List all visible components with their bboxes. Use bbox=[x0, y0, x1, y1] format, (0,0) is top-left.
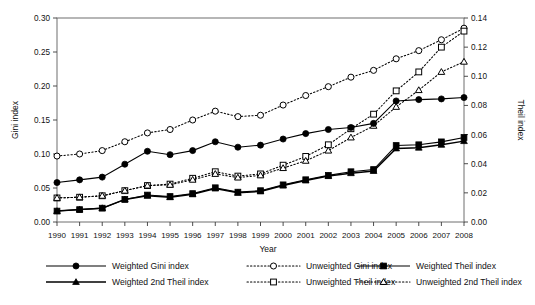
y-axis-tick-label: 0.20 bbox=[34, 82, 50, 91]
y2-axis-tick-label: 0.00 bbox=[471, 218, 487, 227]
y2-axis-tick-label: 0.02 bbox=[471, 189, 487, 198]
chart-legend: Weighted Gini indexUnweighted Gini index… bbox=[46, 261, 523, 287]
x-axis-tick-label: 2003 bbox=[342, 231, 360, 240]
y2-axis-tick-label: 0.06 bbox=[471, 131, 487, 140]
x-axis-tick-label: 2000 bbox=[274, 231, 292, 240]
x-axis-tick-label: 1998 bbox=[229, 231, 247, 240]
data-point-marker bbox=[461, 95, 467, 101]
data-point-marker bbox=[325, 84, 331, 90]
series-unweighted-2nd-theil-index bbox=[54, 58, 468, 200]
y2-axis-tick-label: 0.12 bbox=[471, 43, 487, 52]
data-point-marker bbox=[371, 111, 377, 117]
x-axis-tick-label: 2001 bbox=[297, 231, 315, 240]
data-point-marker bbox=[212, 108, 218, 114]
data-point-marker bbox=[280, 102, 286, 108]
x-axis-tick-label: 2007 bbox=[432, 231, 450, 240]
data-point-marker bbox=[212, 139, 218, 145]
data-point-marker bbox=[167, 126, 173, 132]
x-axis-tick-label: 2004 bbox=[365, 231, 383, 240]
legend-label: Unweighted 2nd Theil index bbox=[416, 277, 523, 287]
legend-item: Weighted 2nd Theil index bbox=[46, 277, 209, 287]
x-axis-tick-label: 2008 bbox=[455, 231, 473, 240]
chart-figure: 0.000.050.100.150.200.250.300.000.020.04… bbox=[0, 0, 535, 305]
data-point-marker bbox=[257, 112, 263, 118]
data-point-marker bbox=[144, 130, 150, 136]
x-axis-tick-label: 2006 bbox=[410, 231, 428, 240]
x-axis-tick-label: 2005 bbox=[387, 231, 405, 240]
data-point-marker bbox=[416, 97, 422, 103]
legend-item: Weighted Gini index bbox=[46, 261, 189, 271]
data-point-marker bbox=[122, 139, 128, 145]
data-point-marker bbox=[325, 126, 331, 132]
data-point-marker bbox=[348, 74, 354, 80]
series-line bbox=[57, 98, 464, 183]
data-point-marker bbox=[280, 136, 286, 142]
data-point-marker bbox=[438, 69, 445, 75]
data-point-marker bbox=[257, 142, 263, 148]
y-axis-tick-label: 0.25 bbox=[34, 48, 50, 57]
y-axis-tick-label: 0.10 bbox=[34, 150, 50, 159]
data-point-marker bbox=[438, 96, 444, 102]
data-point-marker bbox=[461, 28, 467, 34]
data-point-marker bbox=[235, 114, 241, 120]
y-axis-tick-label: 0.00 bbox=[34, 218, 50, 227]
data-point-marker bbox=[393, 98, 399, 104]
series-line bbox=[57, 28, 464, 156]
y2-axis-tick-label: 0.10 bbox=[471, 72, 487, 81]
data-point-marker bbox=[167, 152, 173, 158]
data-point-marker bbox=[393, 88, 399, 94]
data-point-marker bbox=[190, 117, 196, 123]
data-point-marker bbox=[270, 263, 276, 269]
y2-axis-title: Theil index bbox=[516, 99, 526, 141]
data-point-marker bbox=[393, 56, 399, 62]
x-axis-tick-label: 1995 bbox=[161, 231, 179, 240]
x-axis-tick-label: 1997 bbox=[206, 231, 224, 240]
legend-label: Weighted 2nd Theil index bbox=[112, 277, 209, 287]
series-unweighted-gini-index bbox=[54, 25, 467, 159]
data-point-marker bbox=[438, 37, 444, 43]
x-axis-title: Year bbox=[259, 244, 276, 254]
data-point-marker bbox=[461, 58, 468, 64]
y2-axis-tick-label: 0.14 bbox=[471, 14, 487, 23]
data-point-marker bbox=[54, 153, 60, 159]
data-point-marker bbox=[303, 92, 309, 98]
x-axis-tick-label: 1996 bbox=[184, 231, 202, 240]
y-axis-tick-label: 0.15 bbox=[34, 116, 50, 125]
legend-item: Unweighted Theil index bbox=[247, 277, 396, 287]
data-point-marker bbox=[190, 148, 196, 154]
x-axis-tick-label: 1990 bbox=[48, 231, 66, 240]
data-point-marker bbox=[77, 151, 83, 157]
data-point-marker bbox=[381, 263, 387, 269]
y-axis-title: Gini index bbox=[10, 100, 20, 139]
data-point-marker bbox=[416, 48, 422, 54]
legend-label: Weighted Theil index bbox=[416, 261, 497, 271]
data-point-marker bbox=[235, 144, 241, 150]
y2-axis-tick-label: 0.04 bbox=[471, 160, 487, 169]
chart-canvas: 0.000.050.100.150.200.250.300.000.020.04… bbox=[0, 0, 535, 305]
data-point-marker bbox=[348, 134, 355, 140]
data-point-marker bbox=[99, 174, 105, 180]
data-point-marker bbox=[303, 131, 309, 137]
legend-label: Weighted Gini index bbox=[112, 261, 189, 271]
y-axis-tick-label: 0.30 bbox=[34, 14, 50, 23]
data-point-marker bbox=[438, 44, 444, 50]
data-point-marker bbox=[99, 148, 105, 154]
y2-axis-tick-label: 0.08 bbox=[471, 101, 487, 110]
data-point-marker bbox=[54, 180, 60, 186]
data-point-marker bbox=[271, 279, 277, 285]
data-point-marker bbox=[416, 69, 422, 75]
data-point-marker bbox=[73, 263, 79, 269]
x-axis-tick-label: 1993 bbox=[116, 231, 134, 240]
x-axis-tick-label: 1999 bbox=[252, 231, 270, 240]
data-point-marker bbox=[122, 161, 128, 167]
x-axis-tick-label: 1991 bbox=[71, 231, 89, 240]
data-point-marker bbox=[415, 87, 422, 93]
x-axis-tick-label: 1994 bbox=[139, 231, 157, 240]
data-point-marker bbox=[144, 148, 150, 154]
data-point-marker bbox=[371, 67, 377, 73]
data-point-marker bbox=[393, 104, 400, 110]
x-axis-tick-label: 1992 bbox=[93, 231, 111, 240]
data-point-marker bbox=[348, 124, 354, 130]
data-point-marker bbox=[371, 120, 377, 126]
data-point-marker bbox=[77, 177, 83, 183]
